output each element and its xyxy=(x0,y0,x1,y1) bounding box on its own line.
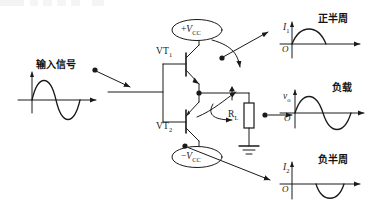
waveform-negative-y-label: I2 xyxy=(283,163,289,174)
waveform-positive-axes xyxy=(280,22,360,58)
waveform-load-origin: O xyxy=(284,114,291,123)
input-signal-leader xyxy=(97,72,130,88)
transistor-lower-vt2 xyxy=(186,102,199,152)
leader-dot-negative xyxy=(182,143,187,148)
waveform-load-y-label: vo xyxy=(283,92,290,103)
leader-line-positive xyxy=(224,32,268,57)
waveform-positive-title: 正半周 xyxy=(318,14,348,24)
waveform-positive-origin: O xyxy=(282,45,289,54)
waveform-load-title: 负载 xyxy=(332,83,352,93)
waveform-positive-curve xyxy=(292,29,326,44)
input-signal-label: 输入信号 xyxy=(36,60,76,70)
circuit-diagram-canvas: 输入信号 VT1 VT2 +VCC −VCC RL 正半周 I1 O 负载 vo… xyxy=(0,0,391,214)
transistor-upper-label: VT1 xyxy=(156,47,173,58)
waveform-negative-curve xyxy=(316,184,344,198)
current-arrow-upper xyxy=(212,40,240,67)
waveform-negative-origin: O xyxy=(282,185,289,194)
ground-symbol xyxy=(239,146,259,154)
supply-negative-label: −VCC xyxy=(181,152,201,163)
load-resistor-label: RL xyxy=(228,110,239,121)
transistor-lower-label: VT2 xyxy=(156,122,173,133)
supply-positive-label: +VCC xyxy=(181,25,201,36)
input-waveform-axes xyxy=(18,72,96,113)
transistor-upper-vt1 xyxy=(186,34,199,84)
waveform-positive-y-label: I1 xyxy=(283,23,289,34)
load-resistor-body xyxy=(244,103,254,128)
leader-dot-load xyxy=(262,112,267,117)
waveform-negative-title: 负半周 xyxy=(318,155,348,165)
